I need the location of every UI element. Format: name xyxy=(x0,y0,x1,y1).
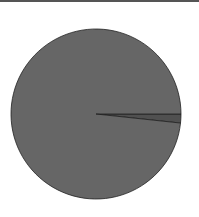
pie-chart xyxy=(0,0,199,217)
pie-slice-slice-a xyxy=(11,29,181,199)
